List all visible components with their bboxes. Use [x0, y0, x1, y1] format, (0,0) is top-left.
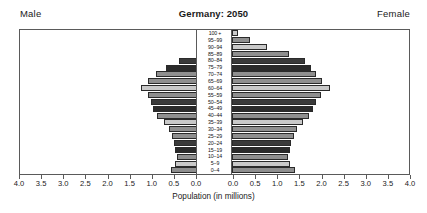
- age-group-label: 55–59: [197, 92, 233, 99]
- female-bar: [232, 106, 313, 112]
- x-tick-label-right: 4.0: [405, 179, 416, 188]
- female-bar: [232, 126, 297, 132]
- x-tick-label-right: 0.0: [228, 179, 239, 188]
- age-group-label: 90–94: [197, 44, 233, 51]
- x-tick-label-left: 0.0: [191, 179, 202, 188]
- population-pyramid-chart: Male Germany: 2050 Female 100 +95–9990–9…: [0, 0, 427, 213]
- age-group-label: 80–84: [197, 57, 233, 64]
- age-group-label: 10–14: [197, 153, 233, 160]
- x-tick-label-right: 1.5: [294, 179, 305, 188]
- age-group-label: 35–39: [197, 119, 233, 126]
- x-tick-label-left: 4.0: [14, 179, 25, 188]
- female-bar: [232, 167, 295, 173]
- female-bar: [232, 58, 305, 64]
- chart-header: Male Germany: 2050 Female: [0, 0, 427, 28]
- age-group-label: 45–49: [197, 105, 233, 112]
- age-group-label-column: 100 +95–9990–9485–8980–8475–7970–7465–69…: [196, 30, 232, 174]
- age-group-label: 40–44: [197, 112, 233, 119]
- x-tick-label-right: 3.5: [383, 179, 394, 188]
- x-tick-label-left: 1.0: [146, 179, 157, 188]
- female-bar: [232, 161, 290, 167]
- age-group-label: 20–24: [197, 140, 233, 147]
- female-bar: [232, 65, 311, 71]
- x-tick-label-right: 1.0: [272, 179, 283, 188]
- age-group-label: 85–89: [197, 51, 233, 58]
- female-bar: [232, 37, 250, 43]
- x-tick-label-right: 2.5: [338, 179, 349, 188]
- x-tick-label-left: 2.5: [80, 179, 91, 188]
- age-group-label: 25–29: [197, 133, 233, 140]
- female-bar: [232, 99, 316, 105]
- female-bar: [232, 154, 288, 160]
- female-bar: [232, 44, 267, 50]
- female-bar: [232, 140, 291, 146]
- age-group-label: 30–34: [197, 126, 233, 133]
- age-group-label: 70–74: [197, 71, 233, 78]
- chart-title: Germany: 2050: [0, 8, 427, 19]
- x-tick-label-left: 3.0: [58, 179, 69, 188]
- age-group-label: 95–99: [197, 37, 233, 44]
- female-bar: [232, 51, 289, 57]
- x-tick-label-right: 0.5: [250, 179, 261, 188]
- x-axis-title: Population (in millions): [0, 192, 427, 201]
- female-bar: [232, 85, 330, 91]
- female-side-label: Female: [377, 8, 410, 19]
- x-tick-label-left: 2.0: [102, 179, 113, 188]
- x-tick-label-left: 1.5: [124, 179, 135, 188]
- female-bar: [232, 113, 309, 119]
- age-group-label: 15–19: [197, 147, 233, 154]
- female-bar: [232, 71, 316, 77]
- female-bar: [232, 92, 321, 98]
- x-tick-label-left: 0.5: [169, 179, 180, 188]
- age-group-label: 60–64: [197, 85, 233, 92]
- female-bar: [232, 133, 294, 139]
- x-tick-label-right: 3.0: [360, 179, 371, 188]
- age-group-label: 75–79: [197, 64, 233, 71]
- age-group-label: 0–4: [197, 167, 233, 174]
- age-group-label: 65–69: [197, 78, 233, 85]
- x-axis: 4.03.53.02.52.01.51.00.50.00.00.51.01.52…: [19, 175, 410, 181]
- female-bar: [232, 119, 303, 125]
- x-tick-label-right: 2.0: [316, 179, 327, 188]
- female-bar: [232, 147, 290, 153]
- x-tick-label-left: 3.5: [36, 179, 47, 188]
- female-bar: [232, 78, 322, 84]
- age-group-label: 100 +: [197, 30, 233, 37]
- age-group-label: 50–54: [197, 99, 233, 106]
- age-group-label: 5–9: [197, 160, 233, 167]
